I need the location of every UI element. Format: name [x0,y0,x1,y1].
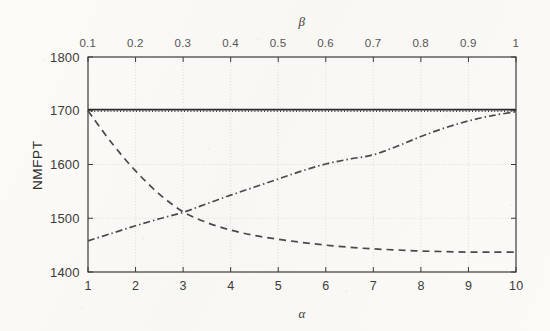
y-tick-1600: 1600 [50,157,80,172]
x-top-tick-1: 1 [513,37,520,49]
series-increasing-dashdot [88,112,516,241]
gridlines [88,57,516,272]
series-decreasing-dashed [88,111,516,252]
x-bottom-tick-9: 9 [465,279,472,293]
x-top-tick-0.8: 0.8 [412,37,429,49]
x-bottom-tick-6: 6 [322,279,329,293]
x-bottom-tick-3: 3 [180,279,187,293]
y-tick-1400: 1400 [50,265,80,280]
x-top-tick-0.6: 0.6 [317,37,334,49]
y-tick-1500: 1500 [50,211,80,226]
nmfpt-line-chart: β α NMFPT 123456789100.10.20.30.40.50.60… [0,0,550,331]
x-bottom-tick-1: 1 [85,279,92,293]
x-bottom-tick-10: 10 [509,279,523,293]
x-top-tick-0.9: 0.9 [460,37,477,49]
x-bottom-tick-4: 4 [227,279,234,293]
y-tick-1800: 1800 [50,50,80,65]
x-bottom-tick-7: 7 [370,279,377,293]
y-tick-1700: 1700 [50,103,80,118]
x-top-tick-0.7: 0.7 [365,37,382,49]
x-top-tick-0.4: 0.4 [222,37,239,49]
x-bottom-tick-2: 2 [132,279,139,293]
x-top-tick-0.5: 0.5 [270,37,287,49]
x-bottom-tick-5: 5 [275,279,282,293]
x-top-tick-0.3: 0.3 [175,37,192,49]
x-top-tick-0.1: 0.1 [80,37,97,49]
x-bottom-tick-8: 8 [417,279,424,293]
x-top-tick-0.2: 0.2 [127,37,144,49]
